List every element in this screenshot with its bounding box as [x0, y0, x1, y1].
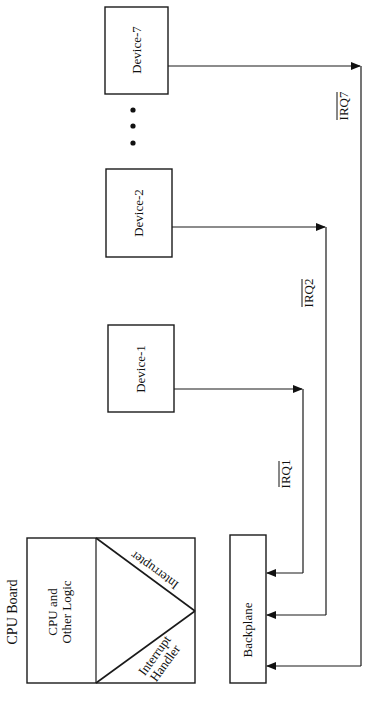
- device-7: Device-7: [105, 7, 168, 94]
- svg-text:IRQ7: IRQ7: [336, 91, 351, 120]
- cpu-logic-label: CPU and Other Logic: [45, 580, 74, 643]
- svg-text:IRQ2: IRQ2: [301, 279, 316, 308]
- cpu-board-title: CPU Board: [5, 580, 20, 645]
- cpu-board: CPU and Other Logic Interrupter Interrup…: [27, 538, 195, 686]
- ellipsis-dots: [130, 107, 135, 145]
- interrupt-diagram: CPU Board CPU and Other Logic Interrupte…: [0, 0, 380, 703]
- irq1-label: IRQ1: [278, 460, 293, 489]
- backplane-label: Backplane: [240, 602, 255, 657]
- svg-text:Other Logic: Other Logic: [59, 580, 74, 643]
- device-2-label: Device-2: [131, 189, 146, 237]
- irq2-label: IRQ2: [301, 279, 316, 308]
- ellipsis-dot: [130, 107, 135, 112]
- irq7-label: IRQ7: [336, 91, 351, 120]
- backplane: Backplane: [230, 535, 266, 683]
- device-7-label: Device-7: [129, 26, 144, 74]
- ellipsis-dot: [130, 123, 135, 128]
- svg-text:IRQ1: IRQ1: [278, 460, 293, 489]
- device-1: Device-1: [108, 325, 174, 412]
- ellipsis-dot: [130, 140, 135, 145]
- svg-text:CPU and: CPU and: [45, 588, 60, 636]
- device-1-label: Device-1: [133, 345, 148, 393]
- device-2: Device-2: [106, 169, 172, 257]
